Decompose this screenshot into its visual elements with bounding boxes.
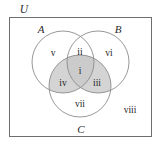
region-label-vii: vii [75, 99, 85, 109]
region-label-i: i [79, 66, 82, 76]
universe-label: U [20, 3, 29, 15]
set-label-a: A [37, 23, 45, 35]
region-label-viii: viii [124, 105, 137, 115]
region-label-v: v [51, 48, 56, 58]
region-label-ii: ii [77, 47, 83, 57]
region-label-vi: vi [105, 48, 113, 58]
venn-diagram-figure: U A B C i ii iii iv v vi vii viii [0, 0, 162, 145]
region-label-iv: iv [59, 78, 67, 88]
set-label-b: B [115, 23, 122, 35]
venn-diagram-canvas: U A B C i ii iii iv v vi vii viii [0, 0, 162, 145]
set-label-c: C [77, 123, 85, 135]
region-label-iii: iii [93, 78, 101, 88]
